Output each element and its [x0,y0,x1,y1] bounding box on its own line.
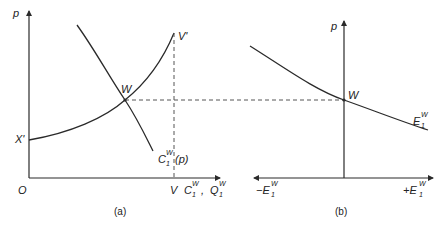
svg-text:W: W [166,149,174,156]
excess-curve [250,46,428,130]
svg-text:V: V [170,184,179,196]
intersection-label-a: W [121,83,133,95]
panel-a-y-label: p [12,7,19,19]
supply-end-label: V' [178,30,188,42]
x-right-label: +E W 1 [403,180,427,198]
svg-text:−E: −E [256,184,270,196]
demand-label: C W 1 (p) [158,149,189,167]
x-left-label: −E W 1 [256,180,279,198]
svg-text:W: W [271,180,279,187]
svg-text:Q: Q [210,184,219,196]
panel-b: p W E W 1 −E W 1 +E W 1 (b) [250,20,433,217]
panel-a-caption: (a) [114,206,126,217]
panel-a: p O X' V' W C W 1 (p) V C W 1 , Q W 1 (a… [12,7,344,217]
intersection-point-a [123,98,126,101]
svg-text:1: 1 [192,191,196,198]
svg-text:1: 1 [271,191,275,198]
svg-text:1: 1 [166,160,170,167]
supply-curve [29,33,174,140]
svg-text:W: W [421,111,429,118]
excess-curve-label: E W 1 [413,111,429,129]
svg-text:W: W [419,180,427,187]
svg-text:1: 1 [421,122,425,129]
demand-curve [77,25,153,151]
panel-b-y-label: p [330,20,337,32]
svg-text:C: C [184,184,192,196]
supply-start-label: X' [14,133,25,145]
svg-text:1: 1 [219,191,223,198]
svg-text:,: , [201,184,204,196]
intersection-label-b: W [348,89,360,101]
origin-label: O [18,184,27,196]
intersection-point-b [342,98,345,101]
svg-text:(p): (p) [175,153,189,165]
svg-text:W: W [219,180,227,187]
diagram-canvas: p O X' V' W C W 1 (p) V C W 1 , Q W 1 (a… [0,0,443,235]
svg-text:W: W [192,180,200,187]
svg-text:C: C [158,153,166,165]
panel-a-x-labels: V C W 1 , Q W 1 [170,180,227,198]
svg-text:+E: +E [403,184,417,196]
svg-text:1: 1 [419,191,423,198]
panel-b-caption: (b) [335,206,347,217]
svg-text:E: E [413,115,421,127]
